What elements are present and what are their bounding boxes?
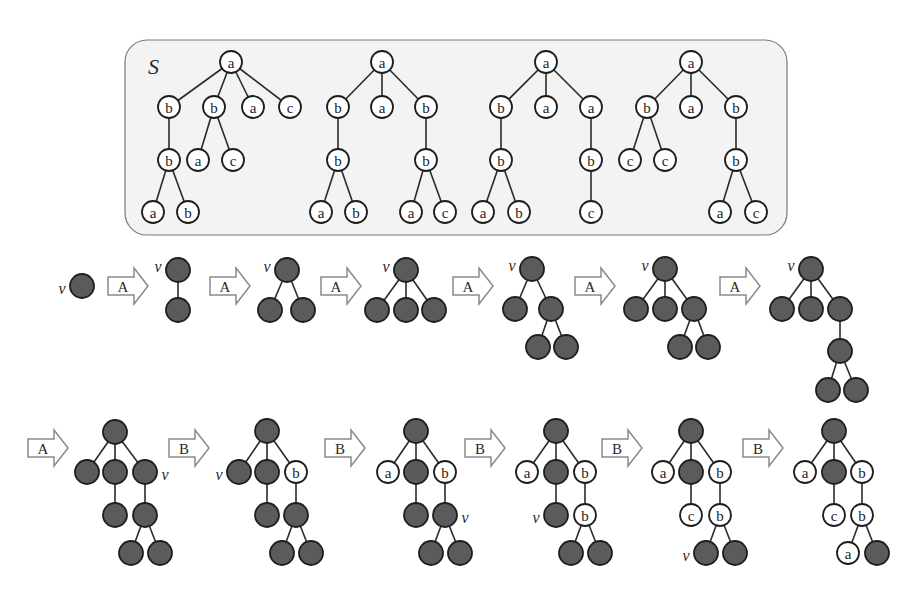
filled-node-circle (148, 541, 172, 565)
node-label: b (165, 153, 173, 169)
node-label: b (716, 508, 724, 524)
node-label: c (588, 205, 595, 221)
labeled-node: b (709, 461, 731, 483)
operation-b-arrow: B (465, 430, 505, 466)
filled-node-circle (822, 460, 846, 484)
construction-step-2: v (154, 258, 190, 323)
unlabeled-node (624, 297, 648, 321)
operation-label: A (118, 279, 129, 295)
unlabeled-node (103, 460, 127, 484)
operation-label: B (179, 441, 189, 457)
filled-node-circle (668, 335, 692, 359)
node-label: a (195, 153, 202, 169)
filled-node-circle (544, 460, 568, 484)
unlabeled-node (255, 503, 279, 527)
filled-node-circle (404, 419, 428, 443)
operation-label: B (753, 441, 763, 457)
filled-node-circle (227, 460, 251, 484)
filled-node-circle (828, 339, 852, 363)
labeled-node: b (177, 201, 199, 223)
unlabeled-node (544, 460, 568, 484)
vertex-v-label: v (787, 257, 795, 274)
vertex-v-label: v (682, 547, 690, 564)
vertex-v-label: v (154, 258, 162, 275)
unlabeled-node (828, 297, 852, 321)
operation-label: A (220, 279, 231, 295)
node-label: a (379, 55, 386, 71)
filled-node-circle (75, 460, 99, 484)
unlabeled-node (133, 503, 157, 527)
node-label: b (732, 153, 740, 169)
vertex-v-label: v (641, 257, 649, 274)
unlabeled-node (828, 339, 852, 363)
unlabeled-node (148, 541, 172, 565)
operation-a-arrow: A (720, 268, 760, 304)
node-label: c (287, 100, 294, 116)
unlabeled-node (770, 297, 794, 321)
node-label: b (441, 465, 449, 481)
filled-node-circle (799, 257, 823, 281)
unlabeled-node (299, 541, 323, 565)
unlabeled-node (668, 335, 692, 359)
node-label: b (497, 100, 505, 116)
filled-node-circle (624, 297, 648, 321)
unlabeled-node (291, 298, 315, 322)
unlabeled-node: v (641, 257, 677, 282)
node-label: a (150, 205, 157, 221)
construction-step-8: v (75, 420, 172, 565)
operation-label: A (730, 279, 741, 295)
labeled-node: b (490, 149, 512, 171)
node-label: c (753, 205, 760, 221)
labeled-node: a (220, 51, 242, 73)
labeled-node: b (203, 96, 225, 118)
operation-b-arrow: B (602, 430, 642, 466)
filled-node-circle (419, 541, 443, 565)
filled-node-circle (526, 335, 550, 359)
filled-node-circle (653, 297, 677, 321)
operation-a-arrow: A (575, 268, 615, 304)
unlabeled-node (559, 541, 583, 565)
filled-node-circle (365, 298, 389, 322)
vertex-v-label: v (58, 280, 66, 297)
unlabeled-node: v (508, 257, 544, 282)
filled-node-circle (679, 419, 703, 443)
filled-node-circle (828, 297, 852, 321)
filled-node-circle (255, 460, 279, 484)
unlabeled-node (404, 503, 428, 527)
unlabeled-node (679, 460, 703, 484)
node-label: a (379, 100, 386, 116)
filled-node-circle (822, 419, 846, 443)
labeled-node: a (709, 201, 731, 223)
node-label: b (643, 100, 651, 116)
node-label: b (352, 205, 360, 221)
labeled-node: b (580, 149, 602, 171)
node-label: c (442, 205, 449, 221)
filled-node-circle (299, 541, 323, 565)
filled-node-circle (284, 503, 308, 527)
unlabeled-node (723, 541, 747, 565)
filled-node-circle (166, 298, 190, 322)
filled-node-circle (255, 419, 279, 443)
filled-node-circle (103, 503, 127, 527)
filled-node-circle (544, 419, 568, 443)
node-label: a (717, 205, 724, 221)
filled-node-circle (275, 258, 299, 282)
labeled-node: b (725, 149, 747, 171)
unlabeled-node (448, 541, 472, 565)
node-label: a (688, 100, 695, 116)
construction-step-12: abcbv (652, 419, 747, 565)
operation-b-arrow: B (169, 430, 209, 466)
node-label: a (250, 100, 257, 116)
operation-a-arrow: A (28, 430, 68, 466)
unlabeled-node (119, 541, 143, 565)
unlabeled-node (816, 378, 840, 402)
operation-b-arrow: B (325, 430, 365, 466)
labeled-node: a (400, 201, 422, 223)
filled-node-circle (166, 258, 190, 282)
labeled-node: a (680, 96, 702, 118)
node-label: a (543, 55, 550, 71)
labeled-node: c (619, 149, 641, 171)
labeled-node: b (415, 96, 437, 118)
filled-node-circle (816, 378, 840, 402)
node-label: a (660, 465, 667, 481)
